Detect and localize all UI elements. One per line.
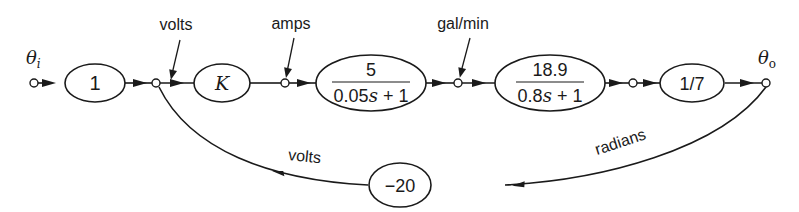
arrow-icon [282,67,292,78]
input-symbol: θi [26,47,41,71]
arrow-icon [472,79,486,87]
pointer-volts [172,40,180,74]
node-output [762,79,770,87]
gain-valve-denominator: 0.8s + 1 [518,85,583,106]
gain-motor: 5 0.05s + 1 [316,55,426,111]
gain-1-label: 1 [89,72,100,94]
arrow-icon [133,79,147,87]
gain-1: 1 [65,64,125,102]
arrow-icon [167,69,177,81]
label-volts: volts [160,16,193,33]
gain-k: K [194,64,250,102]
arrow-icon [609,79,623,87]
arrow-icon [432,79,446,87]
node-amps [281,79,289,87]
label-volts-feedback: volts [287,146,322,166]
label-amps: amps [271,15,310,32]
node-sum [152,79,160,87]
signal-flow-graph: 1 K 5 0.05s + 1 18.9 0.8s + 1 1/7 −20 θi… [0,0,799,212]
arrow-icon [643,79,657,87]
label-gal-min: gal/min [437,15,489,32]
gain-motor-denominator: 0.05s + 1 [334,85,409,106]
arrow-icon [42,79,56,87]
gain-valve-numerator: 18.9 [532,60,567,80]
node-intermediate [629,79,637,87]
pointer-gal-min [461,38,470,72]
arrow-icon [740,79,754,87]
arrow-icon [170,79,184,87]
gain-1-7-label: 1/7 [679,74,704,94]
node-input [30,79,38,87]
arrow-icon [456,67,466,79]
arrow-icon [297,79,311,87]
gain-feedback: −20 [369,163,431,207]
gain-1-7: 1/7 [660,64,724,102]
node-flow [454,79,462,87]
gain-valve: 18.9 0.8s + 1 [495,55,605,111]
gain-motor-numerator: 5 [366,60,376,80]
pointer-amps [287,38,294,72]
gain-k-label: K [214,72,231,94]
output-symbol: θo [758,47,776,71]
label-radians: radians [593,126,648,158]
gain-feedback-label: −20 [385,176,416,196]
